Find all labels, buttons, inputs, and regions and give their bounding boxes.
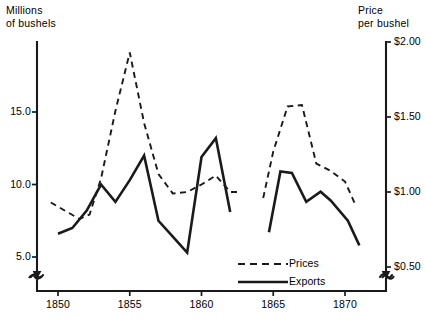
left-value-axis — [31, 41, 43, 279]
y-axis-tick-label: 15.0 — [0, 106, 31, 117]
x-axis-tick-label: 1860 — [184, 299, 220, 310]
chart-figure: Millions of bushels Price per bushel — [0, 0, 425, 319]
x-axis-tick-label: 1850 — [40, 299, 76, 310]
x-axis-tick-label: 1870 — [327, 299, 363, 310]
x-axis-tick-label: 1865 — [255, 299, 291, 310]
x-axis-tick-label: 1855 — [112, 299, 148, 310]
legend-label-prices: Prices — [289, 258, 319, 269]
y2-axis-tick-label: $1.00 — [394, 186, 425, 197]
y2-axis-tick-label: $1.50 — [394, 111, 425, 122]
y2-axis-tick-label: $0.50 — [394, 261, 425, 272]
legend-label-exports: Exports — [289, 276, 325, 287]
right-value-axis — [380, 41, 392, 279]
y2-axis-tick-label: $2.00 — [394, 36, 425, 47]
x-axis — [29, 275, 394, 296]
legend-swatches — [238, 264, 288, 282]
y-axis-tick-label: 10.0 — [0, 179, 31, 190]
y-axis-tick-label: 5.0 — [0, 251, 31, 262]
chart-plot-area — [0, 0, 425, 319]
